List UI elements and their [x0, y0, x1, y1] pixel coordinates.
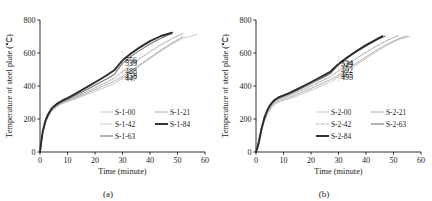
- y-axis-title: Temperature of steel plate (℃): [5, 34, 14, 138]
- legend-label-s-2-63: S-2-63: [386, 120, 406, 129]
- x-tick-label: 50: [174, 156, 182, 165]
- x-tick-label: 60: [201, 156, 209, 165]
- x-tick-label: 30: [119, 156, 127, 165]
- x-axis-title: Time (minute): [98, 167, 147, 176]
- y-tick-label: 0: [248, 148, 252, 157]
- figure-container: 02004006008000102030405060Time (minute)T…: [0, 0, 432, 201]
- x-tick-label: 60: [417, 156, 425, 165]
- y-tick-label: 200: [24, 115, 36, 124]
- y-tick-label: 800: [240, 16, 252, 25]
- series-line-s-1-21: [40, 37, 183, 153]
- legend-label-s-2-21: S-2-21: [386, 108, 406, 117]
- legend-label-s-1-00: S-1-00: [115, 108, 135, 117]
- panel-a-caption: (a): [0, 189, 216, 199]
- x-tick-label: 10: [280, 156, 288, 165]
- x-tick-label: 40: [362, 156, 370, 165]
- series-line-s-1-63: [40, 34, 172, 152]
- y-tick-label: 400: [240, 82, 252, 91]
- chart-a-svg: 02004006008000102030405060Time (minute)T…: [0, 0, 216, 201]
- y-tick-label: 200: [240, 115, 252, 124]
- data-annotation-label: 447: [125, 74, 137, 83]
- panel-b-caption: (b): [216, 189, 432, 199]
- x-tick-label: 0: [38, 156, 42, 165]
- data-annotation-label: 455: [341, 73, 353, 82]
- legend-label-s-2-42: S-2-42: [331, 120, 351, 129]
- y-tick-label: 0: [32, 148, 36, 157]
- legend-label-s-1-63: S-1-63: [115, 132, 135, 141]
- x-tick-label: 20: [91, 156, 99, 165]
- series-line-s-1-42: [40, 34, 183, 152]
- y-tick-label: 800: [24, 16, 36, 25]
- legend-label-s-1-21: S-1-21: [170, 108, 190, 117]
- x-axis-title: Time (minute): [314, 167, 363, 176]
- series-line-s-2-63: [256, 36, 385, 152]
- x-tick-label: 30: [335, 156, 343, 165]
- legend-label-s-2-00: S-2-00: [331, 108, 351, 117]
- x-tick-label: 0: [254, 156, 258, 165]
- x-tick-label: 40: [146, 156, 154, 165]
- y-tick-label: 600: [240, 49, 252, 58]
- x-tick-label: 50: [390, 156, 398, 165]
- chart-b-svg: 02004006008000102030405060Time (minute)T…: [216, 0, 432, 201]
- legend-label-s-2-84: S-2-84: [331, 132, 351, 141]
- legend-label-s-1-84: S-1-84: [170, 120, 190, 129]
- chart-panel-a: 02004006008000102030405060Time (minute)T…: [0, 0, 216, 201]
- y-tick-label: 400: [24, 82, 36, 91]
- x-tick-label: 20: [307, 156, 315, 165]
- legend-label-s-1-42: S-1-42: [115, 120, 135, 129]
- x-tick-label: 10: [64, 156, 72, 165]
- series-line-s-2-42: [256, 36, 399, 152]
- y-tick-label: 600: [24, 49, 36, 58]
- y-axis-title: Temperature of steel plate (℃): [221, 34, 230, 138]
- chart-panel-b: 02004006008000102030405060Time (minute)T…: [216, 0, 432, 201]
